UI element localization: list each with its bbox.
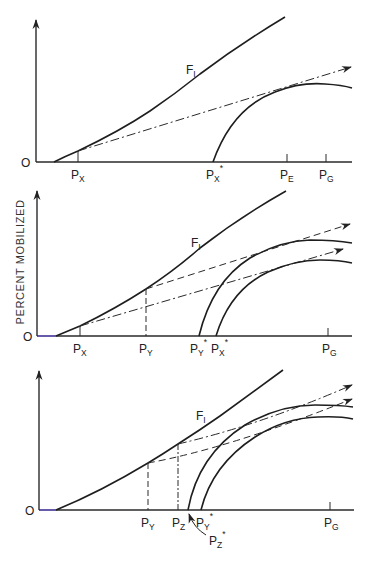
fi-curve — [56, 370, 283, 510]
fi-curve — [54, 17, 285, 162]
origin-label: O — [25, 504, 34, 518]
tangent-arrow-py — [148, 399, 352, 463]
x-label-px-star: PX* — [206, 163, 224, 184]
origin-label: O — [21, 156, 30, 170]
x-label-pg: PG — [322, 342, 337, 358]
y-axis-label: PERCENT MOBILIZED — [14, 200, 26, 325]
panel-top: O FI PX PX* PE PG — [21, 17, 352, 184]
x-label-pz: PZ — [172, 516, 185, 532]
x-label-py-star: PY* — [190, 337, 208, 358]
origin-label: O — [23, 330, 32, 344]
x-label-px: PX — [73, 342, 87, 358]
tangent-arrow-py — [146, 224, 350, 289]
panel-bottom: O FI PY PZ PY* PG PZ* — [25, 370, 354, 550]
diagram-canvas: PERCENT MOBILIZED O FI PX PX* PE PG — [0, 0, 370, 563]
x-label-px: PX — [71, 168, 85, 184]
x-label-py: PY — [141, 516, 155, 532]
x-label-px-star: PX* — [211, 337, 229, 358]
x-label-pg: PG — [319, 168, 334, 184]
fi-label: FI — [186, 63, 196, 79]
callout-label-pz-star: PZ* — [209, 529, 226, 550]
fi-label: FI — [191, 236, 201, 252]
x-label-pe: PE — [280, 168, 294, 184]
x-label-py: PY — [139, 342, 153, 358]
x-label-pg: PG — [324, 516, 339, 532]
resistance-curve-px — [216, 260, 352, 336]
panel-middle: O FI PX PY PY* PX* PG — [23, 191, 352, 358]
fi-curve — [56, 191, 286, 336]
tangent-arrow — [78, 67, 351, 151]
fi-label: FI — [196, 409, 206, 425]
resistance-curve — [213, 84, 352, 162]
resistance-curve-py — [201, 417, 353, 510]
